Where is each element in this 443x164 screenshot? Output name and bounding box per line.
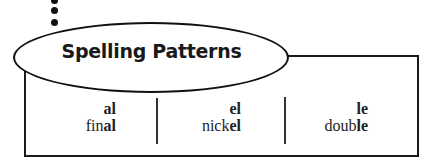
pattern-label: al bbox=[60, 100, 116, 117]
spelling-patterns-diagram: Spelling Patterns al final el nickel le … bbox=[0, 0, 443, 164]
pattern-label: el bbox=[180, 100, 241, 117]
example-word: double bbox=[300, 117, 368, 134]
example-word: final bbox=[60, 117, 116, 134]
bullet-dot-icon bbox=[51, 7, 58, 14]
bullet-dot-icon bbox=[51, 0, 58, 4]
diagram-title: Spelling Patterns bbox=[13, 40, 290, 62]
example-word: nickel bbox=[180, 117, 241, 134]
column-divider bbox=[156, 98, 158, 144]
pattern-cell-le: le double bbox=[300, 100, 368, 134]
pattern-cell-el: el nickel bbox=[180, 100, 241, 134]
column-divider bbox=[284, 97, 286, 144]
pattern-label: le bbox=[300, 100, 368, 117]
bullet-dot-icon bbox=[51, 19, 58, 26]
pattern-cell-al: al final bbox=[60, 100, 116, 134]
